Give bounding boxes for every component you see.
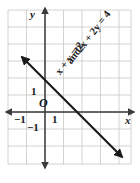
y-tick-1: 1: [31, 85, 37, 97]
y-axis-label: y: [30, 8, 35, 20]
grid-lines: [8, 10, 131, 164]
x-axis-label: x: [125, 114, 131, 126]
x-tick-1: 1: [52, 113, 58, 125]
coordinate-plane: [0, 0, 140, 183]
x-tick-minus-1: −1: [14, 113, 26, 125]
origin-label: O: [39, 96, 48, 111]
graph-figure: y x O 1 1 −1 −1 2x + 2y = 4 and x + y = …: [0, 0, 140, 183]
plotted-line: [22, 57, 122, 157]
y-tick-minus-1: −1: [27, 121, 39, 133]
